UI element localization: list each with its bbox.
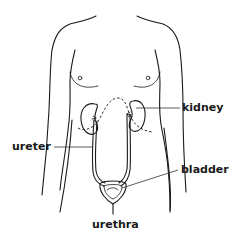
kidney-label: kidney [182, 102, 223, 113]
kidneys [81, 101, 145, 135]
bladder-label: bladder [181, 164, 229, 175]
torso-outline [42, 16, 186, 212]
bladder [100, 181, 126, 204]
urethra-label: urethra [92, 219, 139, 230]
chest [70, 72, 160, 87]
left-nipple [78, 76, 82, 80]
ureters [93, 114, 131, 186]
leader-lines [54, 108, 180, 188]
urinary-system-diagram: kidney ureter bladder urethra [0, 0, 236, 243]
ureter-label: ureter [12, 141, 51, 152]
right-nipple [146, 76, 150, 80]
torso-illustration [0, 0, 236, 243]
